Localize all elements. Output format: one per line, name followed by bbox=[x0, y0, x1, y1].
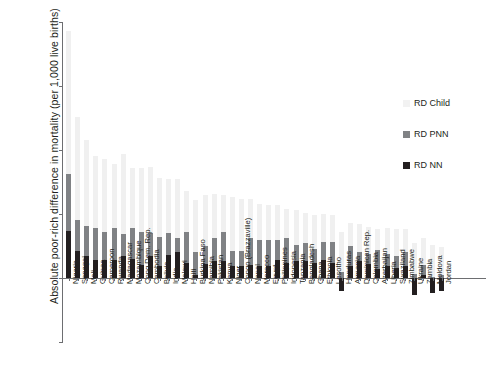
x-tick-label: Lesotho bbox=[334, 257, 343, 284]
bar-column bbox=[366, 22, 371, 342]
x-tick-label: Bangladesh bbox=[307, 244, 316, 284]
bar-segment-child bbox=[184, 191, 189, 232]
x-tick-label: Colombia bbox=[371, 252, 380, 284]
bar-segment-pnn bbox=[75, 220, 80, 251]
legend-swatch-nn-icon bbox=[403, 162, 410, 169]
bar-segment-child bbox=[93, 156, 98, 228]
bar-segment-child bbox=[121, 154, 126, 235]
bar-segment-child bbox=[102, 159, 107, 232]
bar-column bbox=[266, 22, 271, 342]
bar-column bbox=[93, 22, 98, 342]
x-tick-label: India bbox=[171, 268, 180, 284]
y-tick-mark bbox=[59, 22, 63, 23]
bar-column bbox=[66, 22, 71, 342]
y-tick-mark bbox=[59, 86, 63, 87]
x-tick-label: Bolivia bbox=[162, 262, 171, 284]
bar-segment-child bbox=[348, 223, 353, 246]
bar-segment-child bbox=[266, 205, 271, 240]
y-axis-line bbox=[62, 22, 63, 342]
bar-segment-child bbox=[166, 179, 171, 233]
y-tick-mark bbox=[59, 342, 63, 343]
x-tick-label: Jordan bbox=[444, 261, 453, 284]
x-tick-label: Cameroon bbox=[107, 249, 116, 284]
bar-column bbox=[230, 22, 235, 342]
x-tick-label: Burkina Faso bbox=[198, 239, 207, 284]
x-tick-label: Tanzania bbox=[298, 254, 307, 284]
y-tick-mark bbox=[59, 214, 63, 215]
x-tick-label: Ukraine bbox=[416, 258, 425, 284]
x-tick-label: Dominican Rep. bbox=[362, 230, 371, 284]
bar-column bbox=[184, 22, 189, 342]
bar-column bbox=[248, 22, 253, 342]
bar-column bbox=[121, 22, 126, 342]
bar-column bbox=[430, 22, 435, 342]
x-tick-label: Armenia bbox=[353, 256, 362, 284]
bar-segment-child bbox=[330, 215, 335, 242]
plot-area: -50050100150200 NigeriaSenegalMaliGuinea… bbox=[63, 22, 487, 342]
bar-segment-child bbox=[257, 204, 262, 240]
bar-segment-child bbox=[66, 31, 71, 174]
bar-segment-child bbox=[148, 167, 153, 234]
x-tick-label: Liberia bbox=[389, 261, 398, 284]
x-tick-label: Namibia bbox=[207, 256, 216, 284]
bar-column bbox=[130, 22, 135, 342]
x-tick-label: Guinea bbox=[98, 260, 107, 285]
bar-segment-child bbox=[175, 179, 180, 238]
x-tick-label: Zambia bbox=[425, 259, 434, 284]
x-tick-label: Ethiopia bbox=[325, 257, 334, 284]
x-tick-label: Kenya bbox=[225, 262, 234, 284]
legend-swatch-pnn-icon bbox=[403, 131, 410, 138]
x-tick-label: Honduras bbox=[344, 251, 353, 284]
bar-column bbox=[75, 22, 80, 342]
legend-item-nn: RD NN bbox=[403, 160, 443, 170]
bar-column bbox=[193, 22, 198, 342]
x-tick-label: Cong Dem. Rep. bbox=[143, 227, 152, 284]
legend-label: RD PNN bbox=[414, 129, 449, 139]
bar-column bbox=[403, 22, 408, 342]
legend-label: RD Child bbox=[414, 98, 450, 108]
x-tick-label: Cambodia bbox=[152, 249, 161, 284]
bar-segment-child bbox=[321, 214, 326, 242]
x-tick-label: Ghana bbox=[316, 261, 325, 284]
bar-segment-child bbox=[84, 140, 89, 226]
bar-segment-child bbox=[212, 194, 217, 239]
bar-segment-pnn bbox=[66, 174, 71, 230]
bar-column bbox=[339, 22, 344, 342]
bar-segment-pnn bbox=[175, 238, 180, 252]
x-tick-label: Nepal bbox=[253, 264, 262, 284]
bar-column bbox=[330, 22, 335, 342]
x-tick-mark bbox=[69, 278, 70, 281]
bar-segment-child bbox=[75, 117, 80, 221]
bar-column bbox=[375, 22, 380, 342]
x-tick-label: Congo (Brazzaville) bbox=[243, 218, 252, 284]
bar-segment-pnn bbox=[93, 228, 98, 260]
bar-column bbox=[148, 22, 153, 342]
x-tick-label: Malawi bbox=[180, 260, 189, 284]
bar-segment-child bbox=[157, 178, 162, 237]
bar-segment-child bbox=[221, 195, 226, 232]
bar-column bbox=[321, 22, 326, 342]
legend-swatch-child-icon bbox=[403, 100, 410, 107]
x-tick-label: Morocco bbox=[262, 255, 271, 284]
x-tick-label: Egypt bbox=[271, 265, 280, 284]
bar-column bbox=[421, 22, 426, 342]
bar-segment-pnn bbox=[184, 232, 189, 263]
bar-segment-child bbox=[230, 197, 235, 251]
x-tick-label: Swaziland bbox=[398, 249, 407, 284]
x-tick-label: Haiti bbox=[189, 269, 198, 284]
x-tick-label: Niger bbox=[234, 266, 243, 284]
bar-segment-child bbox=[139, 168, 144, 232]
bar-column bbox=[221, 22, 226, 342]
x-tick-label: Mozambique bbox=[134, 241, 143, 284]
x-tick-label: Pakistan bbox=[216, 255, 225, 284]
bar-segment-child bbox=[375, 229, 380, 249]
bar-column bbox=[112, 22, 117, 342]
bar-segment-child bbox=[130, 168, 135, 228]
bar-column bbox=[357, 22, 362, 342]
bar-column bbox=[394, 22, 399, 342]
bar-column bbox=[84, 22, 89, 342]
legend-item-child: RD Child bbox=[403, 98, 450, 108]
bar-column bbox=[385, 22, 390, 342]
bar-segment-pnn bbox=[166, 233, 171, 255]
x-tick-label: Rwanda bbox=[116, 256, 125, 284]
